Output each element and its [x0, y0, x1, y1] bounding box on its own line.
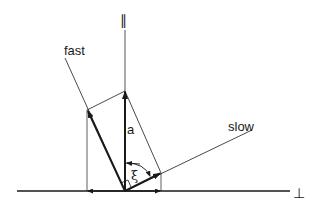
construction-line-fast-to-a	[87, 91, 125, 110]
fast-axis-label: fast	[64, 43, 85, 58]
slow-axis-label: slow	[228, 119, 255, 134]
fast-component-arrow	[88, 111, 125, 191]
perpendicular-axis-label: ⊥	[293, 185, 305, 201]
parallel-axis-label: ∥	[120, 12, 127, 28]
vector-diagram: ∥ ⊥ fast slow a ξ	[0, 0, 320, 206]
angle-xi-arc-start	[127, 163, 140, 164]
angle-xi-label: ξ	[131, 168, 138, 183]
vector-a-label: a	[127, 122, 135, 137]
